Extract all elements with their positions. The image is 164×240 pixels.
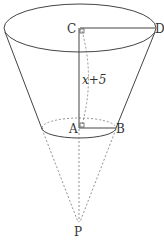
label-C: C: [67, 22, 76, 36]
label-A: A: [68, 122, 78, 136]
frustum-diagram: C D A B P x+5: [0, 0, 164, 240]
dashed-right-to-P: [80, 129, 116, 222]
right-slant-edge: [116, 32, 155, 128]
label-B: B: [116, 122, 125, 136]
label-P: P: [74, 225, 82, 239]
label-height: x+5: [82, 73, 106, 87]
left-slant-edge: [5, 32, 42, 129]
label-D: D: [155, 22, 164, 36]
dashed-left-to-P: [42, 129, 78, 222]
